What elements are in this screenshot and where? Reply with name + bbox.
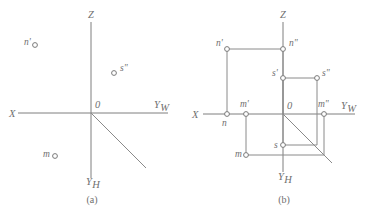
point-label-np: n' <box>24 37 32 47</box>
point-label-sp: s' <box>272 68 279 78</box>
axis-label-z: Z <box>280 9 286 20</box>
axis-label-0: 0 <box>95 99 101 110</box>
axis-yh-diagonal <box>91 113 146 168</box>
point-label-mp: m' <box>240 99 250 109</box>
axis-label-subscript: W <box>160 102 170 113</box>
axis-label-subscript: H <box>91 179 101 190</box>
axis-yh-diagonal <box>283 114 332 163</box>
point-marker-ndp <box>281 47 286 52</box>
point-marker-sdp <box>112 71 117 76</box>
point-marker-m <box>244 153 249 158</box>
point-label-s: s <box>274 140 278 150</box>
point-marker-np <box>33 43 38 48</box>
point-label-m: m <box>235 149 242 159</box>
panel-a: XZYWYH0n's"m(a) <box>8 9 170 206</box>
axis-label-x: X <box>8 108 16 119</box>
point-label-ndp: n" <box>289 38 299 48</box>
projection-figure: XZYWYH0n's"m(a)XZYWYH0n'n"s's"m'm"nsm(b) <box>0 0 367 210</box>
axis-label-0: 0 <box>287 100 293 111</box>
point-marker-m <box>53 154 58 159</box>
axis-label-y-w: YW <box>154 99 170 113</box>
axis-label-subscript: W <box>347 103 357 114</box>
axis-label-x: X <box>191 109 199 120</box>
axis-label-y-w: YW <box>341 100 357 114</box>
point-label-m: m <box>43 149 50 159</box>
point-label-sdp: s" <box>120 63 129 73</box>
point-label-np: n' <box>216 38 224 48</box>
point-marker-mp <box>244 112 249 117</box>
panel-caption-b: (b) <box>278 194 290 206</box>
figure-canvas: XZYWYH0n's"m(a)XZYWYH0n'n"s's"m'm"nsm(b) <box>0 0 367 210</box>
point-marker-n <box>225 112 230 117</box>
panel-caption-a: (a) <box>86 194 97 206</box>
point-marker-sp <box>281 76 286 81</box>
point-marker-np <box>225 47 230 52</box>
point-marker-mdp <box>322 112 327 117</box>
panel-b: XZYWYH0n'n"s's"m'm"nsm(b) <box>191 9 357 206</box>
axis-label-subscript: H <box>283 174 293 185</box>
axis-label-y-h: YH <box>278 171 293 185</box>
point-label-sdp: s" <box>322 68 331 78</box>
point-label-mdp: m" <box>318 99 330 109</box>
axis-label-z: Z <box>88 9 94 20</box>
axis-label-y-h: YH <box>86 176 101 190</box>
point-marker-sdp <box>315 76 320 81</box>
point-label-n: n <box>222 118 227 128</box>
point-marker-s <box>281 143 286 148</box>
